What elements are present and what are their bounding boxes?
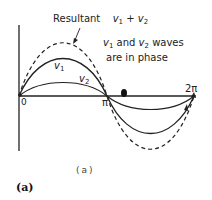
v2-curve-label: v2	[79, 74, 89, 86]
two-pi-label: 2π	[185, 84, 197, 94]
phase-note-line2: are in phase	[106, 53, 168, 63]
resultant-label: Resultant	[53, 13, 100, 24]
phase-note-line1: v1 and v2 waves	[103, 38, 184, 50]
pi-label: π	[102, 98, 108, 108]
sub-caption: (a)	[76, 166, 95, 175]
figure-caption: (a)	[16, 181, 34, 194]
resultant-pointer-line	[75, 28, 80, 40]
ink-blot	[121, 89, 127, 97]
resultant-pointer-arrowhead	[73, 38, 78, 44]
v1-curve-label: v1	[54, 61, 64, 73]
formula-plus: +	[126, 13, 134, 24]
resultant-title: Resultant v1 + v2	[53, 14, 148, 26]
resultant-end-arrowhead	[184, 104, 188, 111]
origin-label: 0	[21, 98, 27, 107]
